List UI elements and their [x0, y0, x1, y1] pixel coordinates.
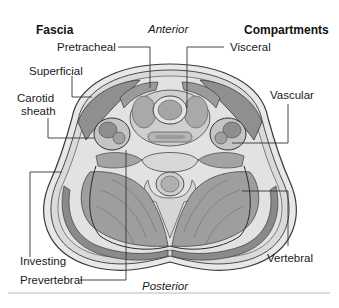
thyroid-left	[132, 96, 156, 128]
bottom-divider	[8, 292, 330, 294]
label-vertebral: Vertebral	[267, 253, 313, 265]
label-prevertebral: Prevertebral	[20, 275, 83, 287]
label-investing: Investing	[20, 256, 66, 268]
spinal-cord	[161, 176, 179, 192]
carotid-left	[113, 132, 125, 144]
label-superficial: Superficial	[29, 66, 83, 78]
esophagus-inner	[155, 135, 185, 139]
label-carotid-sheath-line2: sheath	[21, 106, 56, 118]
label-carotid-sheath-line1: Carotid	[17, 93, 54, 105]
label-visceral: Visceral	[230, 42, 271, 54]
label-vascular: Vascular	[270, 90, 314, 102]
label-pretracheal: Pretracheal	[57, 42, 116, 54]
trachea-lumen	[158, 100, 182, 120]
carotid-right	[215, 132, 227, 144]
thyroid-right	[184, 96, 208, 128]
